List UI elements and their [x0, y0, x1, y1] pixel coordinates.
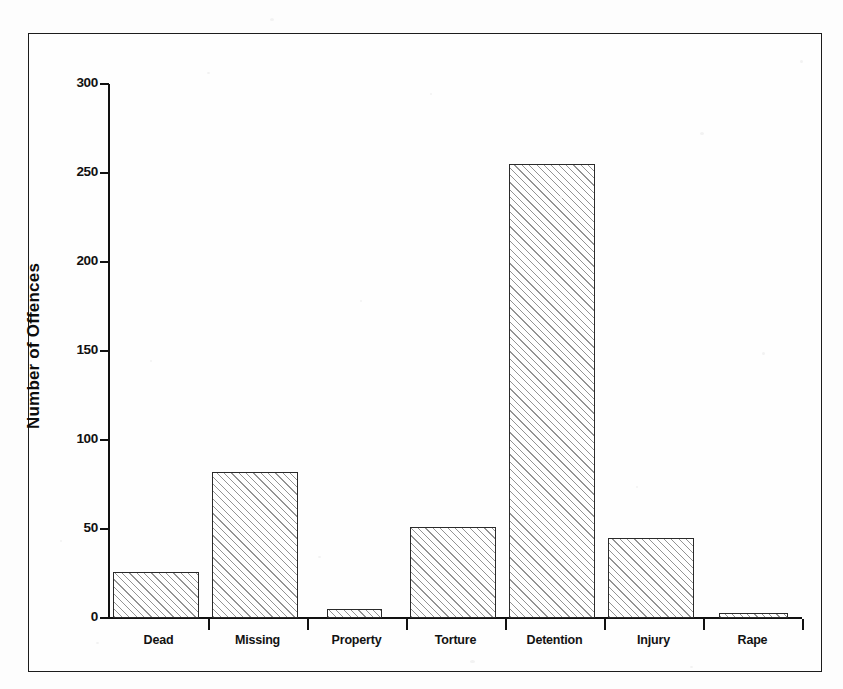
- y-tick-mark: [100, 350, 109, 352]
- y-tick-mark: [100, 439, 109, 441]
- bar-detention: [509, 164, 595, 618]
- x-label-rape: Rape: [703, 633, 802, 647]
- x-tick-mark: [505, 619, 507, 630]
- scan-speck: [800, 60, 803, 63]
- x-tick-mark: [604, 619, 606, 630]
- scan-speck: [96, 642, 99, 644]
- y-tick-label: 250: [54, 164, 98, 179]
- scan-speck: [690, 666, 693, 668]
- y-tick-label: 150: [54, 342, 98, 357]
- y-tick-label: 200: [54, 253, 98, 268]
- y-axis-title: Number of Offences: [24, 269, 44, 429]
- scanned-page: Number of Offences 050100150200250300 De…: [0, 0, 843, 689]
- y-tick-label: 100: [54, 431, 98, 446]
- x-tick-mark: [406, 619, 408, 630]
- y-tick-mark: [100, 617, 109, 619]
- scan-speck: [318, 556, 321, 558]
- bar-chart: Number of Offences 050100150200250300 De…: [0, 0, 843, 689]
- scan-speck: [270, 18, 274, 21]
- bar-missing: [212, 472, 298, 618]
- scan-speck: [762, 352, 765, 355]
- x-tick-mark: [208, 619, 210, 630]
- x-label-dead: Dead: [109, 633, 208, 647]
- y-tick-label: 0: [54, 609, 98, 624]
- bar-dead: [113, 572, 199, 618]
- y-tick-label: 50: [54, 520, 98, 535]
- y-tick-mark: [100, 83, 109, 85]
- scan-speck: [60, 540, 62, 542]
- x-tick-mark: [307, 619, 309, 630]
- y-tick-mark: [100, 528, 109, 530]
- x-tick-mark: [802, 619, 804, 630]
- bar-property: [327, 609, 382, 618]
- scan-speck: [207, 72, 210, 74]
- y-tick-label: 300: [54, 75, 98, 90]
- scan-speck: [470, 660, 475, 663]
- scan-speck: [636, 486, 638, 488]
- bar-rape: [719, 613, 788, 618]
- bar-injury: [608, 538, 694, 618]
- x-label-property: Property: [307, 633, 406, 647]
- y-tick-mark: [100, 261, 109, 263]
- y-tick-mark: [100, 172, 109, 174]
- x-tick-mark: [703, 619, 705, 630]
- x-label-missing: Missing: [208, 633, 307, 647]
- scan-speck: [360, 300, 362, 302]
- scan-speck: [700, 132, 704, 135]
- bar-torture: [410, 527, 496, 618]
- scan-speck: [430, 93, 432, 95]
- x-label-injury: Injury: [604, 633, 703, 647]
- x-label-detention: Detention: [505, 633, 604, 647]
- x-label-torture: Torture: [406, 633, 505, 647]
- scan-speck: [150, 360, 152, 362]
